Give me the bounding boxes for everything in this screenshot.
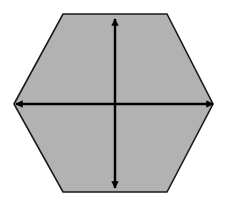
figure-container (0, 0, 229, 207)
hexagon-diagram (0, 0, 229, 207)
